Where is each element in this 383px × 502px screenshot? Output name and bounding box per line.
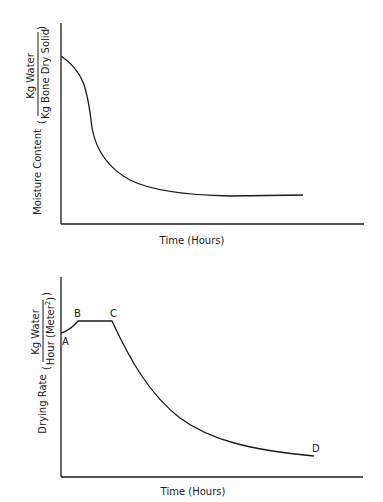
moisture-content-curve: [61, 56, 303, 196]
bottom-x-label: Time (Hours): [160, 486, 226, 497]
point-label-b: B: [74, 308, 81, 319]
drying-rate-curve: [61, 321, 314, 456]
bottom-y-units-numerator: Kg Water: [30, 308, 41, 355]
point-label-c: C: [110, 308, 117, 319]
point-label-d: D: [312, 443, 320, 454]
top-y-units-denominator: Kg Bone Dry Solid: [40, 29, 51, 119]
top-y-paren-close: ): [36, 26, 47, 30]
bottom-y-paren-close: ): [41, 292, 52, 296]
bottom-y-paren-open: (: [41, 366, 52, 370]
point-label-a: A: [62, 336, 69, 347]
moisture-content-chart: Time (Hours) Moisture Content ( Kg Water…: [25, 23, 364, 246]
top-y-label: Moisture Content: [32, 129, 43, 215]
top-y-paren-open: (: [36, 120, 47, 124]
top-y-units-numerator: Kg Water: [25, 52, 36, 99]
top-x-label: Time (Hours): [159, 235, 225, 246]
drying-rate-chart: A B C D Time (Hours) Drying Rate ( Kg Wa…: [30, 277, 363, 497]
drying-charts: Time (Hours) Moisture Content ( Kg Water…: [0, 0, 383, 502]
bottom-y-label: Drying Rate: [37, 374, 48, 433]
bottom-y-units-denominator: Hour (Meter2): [44, 297, 56, 366]
